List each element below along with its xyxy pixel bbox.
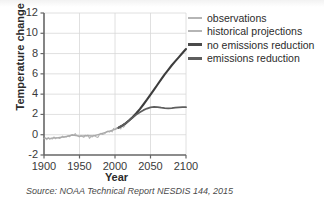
chart-legend: observationshistorical projectionsno emi… xyxy=(188,11,324,65)
y-tick-label: 8 xyxy=(12,47,38,59)
x-tick-label: 1950 xyxy=(60,160,100,172)
x-tick-label: 1900 xyxy=(24,160,64,172)
legend-swatch-line-icon xyxy=(188,43,202,46)
x-tick-label: 2100 xyxy=(166,160,206,172)
legend-swatch-line-icon xyxy=(188,17,202,19)
legend-label: emissions reduction xyxy=(207,52,300,64)
y-tick-label: 6 xyxy=(12,67,38,79)
legend-label: no emissions reduction xyxy=(207,39,314,51)
x-axis-title: Year xyxy=(44,171,189,183)
legend-swatch-line-icon xyxy=(188,57,202,60)
legend-item: observations xyxy=(188,11,324,25)
x-tick-label: 2000 xyxy=(95,160,135,172)
x-tick-label: 2050 xyxy=(131,160,171,172)
y-tick-label: 0 xyxy=(12,128,38,140)
legend-item: no emissions reduction xyxy=(188,38,324,52)
y-tick-label: -2 xyxy=(12,148,38,160)
legend-item: emissions reduction xyxy=(188,52,324,66)
legend-swatch-line-icon xyxy=(188,30,202,32)
y-tick-label: 4 xyxy=(12,87,38,99)
legend-item: historical projections xyxy=(188,25,324,39)
source-caption: Source: NOAA Technical Report NESDIS 144… xyxy=(26,186,233,196)
y-tick-label: 10 xyxy=(12,26,38,38)
y-tick-label: 2 xyxy=(12,107,38,119)
climate-projection-figure: Temperature change (°F) Year -2024681012… xyxy=(0,0,324,204)
y-tick-label: 12 xyxy=(12,6,38,18)
legend-label: historical projections xyxy=(207,25,302,37)
legend-label: observations xyxy=(207,12,267,24)
